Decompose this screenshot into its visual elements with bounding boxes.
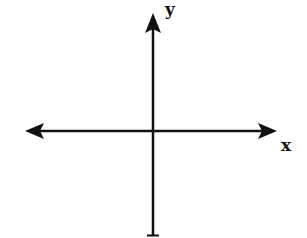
x-axis (25, 123, 277, 139)
y-axis (145, 13, 161, 236)
coordinate-axes-diagram: y x (0, 0, 307, 238)
x-axis-label: x (281, 135, 292, 155)
y-axis-label: y (164, 0, 176, 19)
